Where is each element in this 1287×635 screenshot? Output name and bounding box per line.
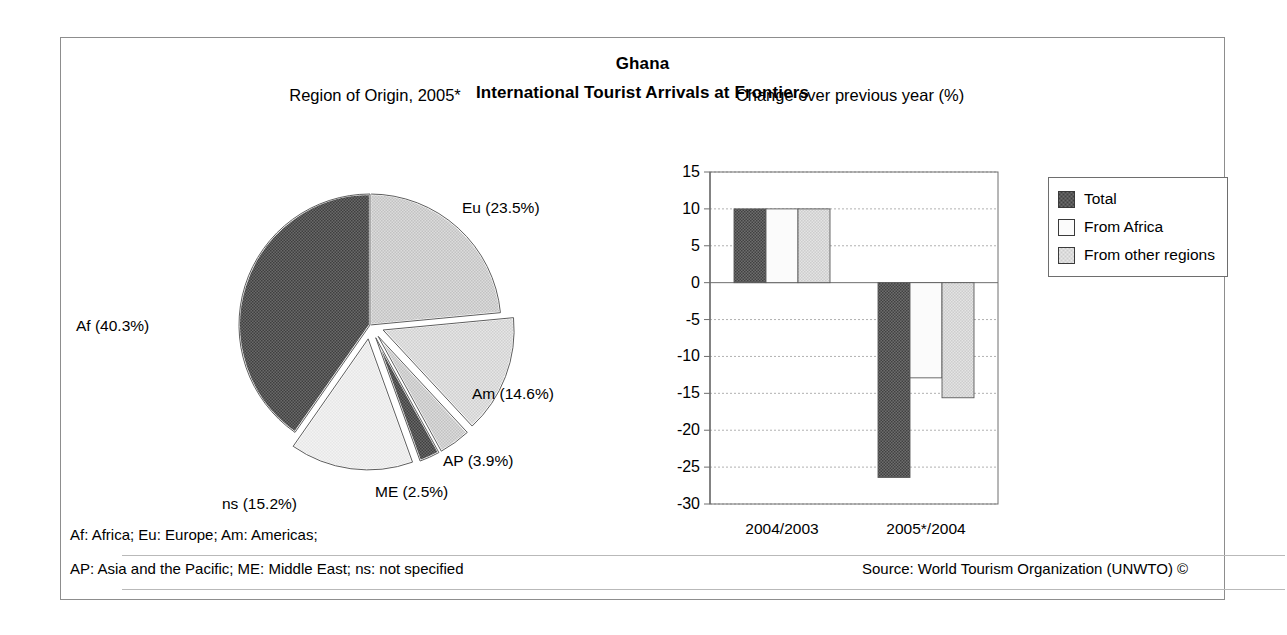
y-tick-label-2: 5 — [660, 238, 700, 254]
bar-series — [734, 209, 974, 478]
pie-label-ns: ns (15.2%) — [222, 496, 297, 512]
source-note: Source: World Tourism Organization (UNWT… — [862, 560, 1188, 577]
pie-label-ap: AP (3.9%) — [443, 453, 513, 469]
x-category-label-0: 2004/2003 — [745, 520, 818, 538]
chart-legend: TotalFrom AfricaFrom other regions — [1048, 177, 1228, 277]
pie-slices — [239, 194, 514, 470]
bar-from-other-regions-0 — [798, 209, 830, 283]
pie-label-am: Am (14.6%) — [472, 386, 554, 402]
footer-divider-bottom — [122, 589, 1285, 590]
y-tick-label-6: -15 — [660, 385, 700, 401]
footnote-abbreviations-line1: Af: Africa; Eu: Europe; Am: Americas; — [70, 526, 318, 543]
bar-from-other-regions-1 — [942, 283, 974, 398]
legend-swatch-icon — [1058, 219, 1075, 236]
legend-swatch-icon — [1058, 247, 1075, 264]
y-tick-label-9: -30 — [660, 496, 700, 512]
legend-label: From other regions — [1084, 246, 1215, 264]
y-tick-label-5: -10 — [660, 348, 700, 364]
footnote-abbreviations-line2: AP: Asia and the Pacific; ME: Middle Eas… — [70, 560, 464, 577]
legend-swatch-icon — [1058, 191, 1075, 208]
legend-item-from-other-regions[interactable]: From other regions — [1058, 241, 1215, 269]
legend-label: Total — [1084, 190, 1117, 208]
x-category-label-1: 2005*/2004 — [886, 520, 965, 538]
y-tick-label-8: -25 — [660, 459, 700, 475]
pie-chart-svg — [60, 37, 620, 507]
y-tick-label-4: -5 — [660, 312, 700, 328]
pie-label-af: Af (40.3%) — [76, 318, 149, 334]
legend-item-total[interactable]: Total — [1058, 185, 1215, 213]
bar-total-0 — [734, 209, 766, 283]
bar-from-africa-1 — [910, 283, 942, 378]
y-tick-label-3: 0 — [660, 275, 700, 291]
y-tick-label-1: 10 — [660, 201, 700, 217]
legend-label: From Africa — [1084, 218, 1163, 236]
y-tick-label-0: 15 — [660, 164, 700, 180]
bar-total-1 — [878, 283, 910, 478]
y-tick-label-7: -20 — [660, 422, 700, 438]
legend-item-from-africa[interactable]: From Africa — [1058, 213, 1215, 241]
chart-page: Ghana International Tourist Arrivals at … — [0, 0, 1287, 635]
pie-label-me: ME (2.5%) — [375, 484, 448, 500]
pie-chart: Af (40.3%) Eu (23.5%) Am (14.6%) AP (3.9… — [60, 37, 620, 507]
bar-from-africa-0 — [766, 209, 798, 283]
bar-chart: 151050-5-10-15-20-25-30 2004/20032005*/2… — [615, 37, 1165, 537]
footer-divider-top — [122, 555, 1285, 556]
pie-label-eu: Eu (23.5%) — [462, 200, 540, 216]
